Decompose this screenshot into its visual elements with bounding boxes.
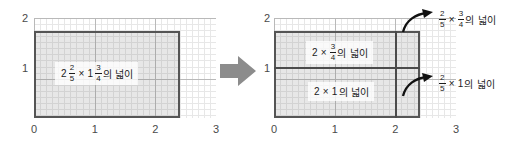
callout-label-top: 2 5 × 3 4 의 넓이 bbox=[438, 10, 496, 29]
callout-top-fraction-1: 2 5 bbox=[439, 10, 446, 29]
left-x-tick-3: 3 bbox=[213, 124, 219, 135]
left-label-whole1: 2 bbox=[61, 68, 67, 79]
left-label-frac1-numerator: 2 bbox=[69, 64, 76, 73]
right-panel: 2 × 3 4 의 넓이 2 × 1 의 넓이 2 1 0 1 2 3 bbox=[264, 0, 528, 142]
callout-bottom-fraction: 2 5 bbox=[439, 74, 446, 93]
callout-label-bottom: 2 5 × 1 의 넓이 bbox=[438, 74, 495, 93]
left-y-tick-2: 2 bbox=[22, 13, 28, 24]
callout-top-frac1-numerator: 2 bbox=[439, 10, 446, 19]
right-top-suffix: 의 넓이 bbox=[337, 45, 368, 60]
callout-top-times-sign: × bbox=[449, 14, 455, 25]
right-y-tick-2: 2 bbox=[264, 13, 270, 24]
callout-bottom-frac-denominator: 5 bbox=[439, 84, 446, 93]
right-bottom-suffix: 의 넓이 bbox=[339, 84, 370, 99]
callout-top-frac2-numerator: 3 bbox=[458, 10, 465, 19]
right-bottom-whole1: 2 bbox=[314, 86, 320, 97]
right-x-tick-0: 0 bbox=[271, 124, 277, 135]
callout-top-frac1-denominator: 5 bbox=[439, 20, 446, 29]
callout-top-fraction-2: 3 4 bbox=[458, 10, 465, 29]
left-label-fraction-1: 2 5 bbox=[69, 64, 76, 83]
left-label-whole2: 1 bbox=[87, 68, 93, 79]
right-bottom-times-sign: × bbox=[323, 86, 329, 97]
left-label-frac1-denominator: 5 bbox=[69, 74, 76, 83]
left-label-frac2-numerator: 3 bbox=[95, 64, 102, 73]
block-arrow-right-icon bbox=[218, 54, 258, 88]
left-x-tick-1: 1 bbox=[92, 124, 98, 135]
transform-arrow bbox=[218, 54, 258, 88]
left-y-tick-1: 1 bbox=[22, 63, 28, 74]
left-label-times-sign: × bbox=[78, 68, 84, 79]
right-top-whole: 2 bbox=[312, 47, 318, 58]
figure-canvas: 2 2 5 × 1 3 4 의 넓이 2 1 0 1 2 3 bbox=[0, 0, 528, 142]
left-label-fraction-2: 3 4 bbox=[95, 64, 102, 83]
callout-top-suffix: 의 넓이 bbox=[465, 12, 496, 27]
right-vertical-divider bbox=[395, 31, 397, 119]
right-x-tick-1: 1 bbox=[332, 124, 338, 135]
callout-arrow-top bbox=[400, 8, 436, 34]
right-top-fraction: 3 4 bbox=[330, 43, 337, 62]
right-bottom-whole2: 1 bbox=[332, 86, 338, 97]
right-inner-label-bottom: 2 × 1 의 넓이 bbox=[308, 82, 374, 101]
callout-arrow-bottom bbox=[400, 72, 436, 98]
left-panel: 2 2 5 × 1 3 4 의 넓이 2 1 0 1 2 3 bbox=[0, 0, 250, 142]
callout-bottom-frac-numerator: 2 bbox=[439, 74, 446, 83]
right-top-frac-denominator: 4 bbox=[330, 53, 337, 62]
callout-top-frac2-denominator: 4 bbox=[458, 20, 465, 29]
left-label-suffix: 의 넓이 bbox=[103, 66, 134, 81]
left-label-frac2-denominator: 4 bbox=[95, 74, 102, 83]
right-top-frac-numerator: 3 bbox=[330, 43, 337, 52]
left-area-label: 2 2 5 × 1 3 4 의 넓이 bbox=[55, 62, 138, 85]
right-inner-label-top: 2 × 3 4 의 넓이 bbox=[306, 41, 373, 64]
curved-arrow-up-right-icon bbox=[400, 8, 436, 34]
right-x-tick-2: 2 bbox=[392, 124, 398, 135]
left-x-tick-0: 0 bbox=[31, 124, 37, 135]
curved-arrow-up-right-icon bbox=[400, 72, 436, 98]
right-horizontal-divider bbox=[274, 67, 420, 69]
right-y-tick-1: 1 bbox=[264, 63, 270, 74]
callout-bottom-times-sign: × bbox=[449, 78, 455, 89]
right-x-tick-3: 3 bbox=[453, 124, 459, 135]
callout-bottom-whole: 1 bbox=[458, 78, 464, 89]
callout-bottom-suffix: 의 넓이 bbox=[464, 76, 495, 91]
left-x-tick-2: 2 bbox=[152, 124, 158, 135]
right-top-times-sign: × bbox=[321, 47, 327, 58]
